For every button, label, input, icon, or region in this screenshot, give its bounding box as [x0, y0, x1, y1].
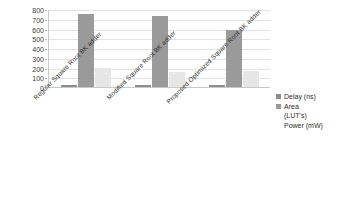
y-axis-tick-label: 800: [0, 7, 44, 14]
bar: [209, 85, 225, 87]
legend-swatch-icon: [276, 104, 281, 109]
y-axis: 0100200300400500600700800: [0, 10, 44, 88]
y-axis-tick-label: 0: [0, 85, 44, 92]
y-axis-tick-label: 700: [0, 16, 44, 23]
bar: [78, 14, 94, 87]
bar: [95, 68, 111, 87]
y-axis-tick-mark: [45, 30, 47, 31]
bar-chart: 0100200300400500600700800 Regular Square…: [0, 0, 361, 221]
bar: [152, 16, 168, 87]
bar: [169, 72, 185, 87]
plot-area: [48, 10, 270, 88]
bar: [226, 30, 242, 87]
y-axis-tick-label: 600: [0, 26, 44, 33]
y-axis-tick-label: 200: [0, 65, 44, 72]
legend-label: Delay (ns): [284, 92, 316, 101]
bar: [135, 85, 151, 87]
y-axis-tick-mark: [45, 59, 47, 60]
legend-item: Delay (ns): [276, 92, 358, 101]
y-axis-tick-mark: [45, 10, 47, 11]
bar: [243, 71, 259, 87]
y-axis-tick-mark: [45, 20, 47, 21]
legend-item: Area (LUT's): [276, 102, 358, 120]
chart-legend: Delay (ns)Area (LUT's)Power (mW): [276, 92, 358, 131]
y-axis-tick-mark: [45, 39, 47, 40]
legend-item: Power (mW): [276, 121, 358, 130]
bar-group: [197, 10, 271, 87]
legend-swatch-icon: [276, 94, 281, 99]
legend-swatch-icon: [276, 123, 281, 128]
y-axis-tick-mark: [45, 88, 47, 89]
plot-area-wrapper: [48, 10, 270, 88]
y-axis-tick-label: 500: [0, 36, 44, 43]
bar-group: [49, 10, 123, 87]
bar: [61, 85, 77, 87]
y-axis-tick-label: 100: [0, 75, 44, 82]
legend-label: Power (mW): [284, 121, 323, 130]
y-axis-tick-mark: [45, 78, 47, 79]
y-axis-tick-mark: [45, 49, 47, 50]
bar-group: [123, 10, 197, 87]
y-axis-tick-mark: [45, 69, 47, 70]
y-axis-tick-label: 300: [0, 55, 44, 62]
legend-label: Area (LUT's): [284, 102, 307, 120]
y-axis-tick-label: 400: [0, 46, 44, 53]
